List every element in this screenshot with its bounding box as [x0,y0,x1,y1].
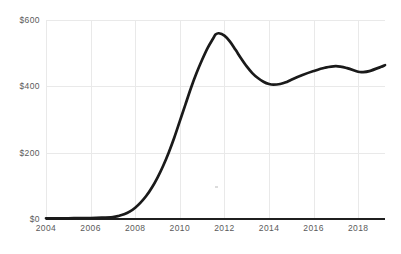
x-tick-label: 2018 [348,223,369,233]
y-tick-label: $400 [19,81,40,91]
x-tick-label: 2012 [214,223,235,233]
stray-speck [215,186,218,188]
line-chart: $600$400$200$0 2004200620082010201220142… [0,0,401,254]
y-tick-label: $200 [19,148,40,158]
x-tick-label: 2004 [36,223,57,233]
x-tick-label: 2010 [170,223,191,233]
y-tick-label: $600 [19,15,40,25]
x-tick-label: 2014 [259,223,280,233]
chart-background [0,0,401,254]
chart-canvas: $600$400$200$0 2004200620082010201220142… [0,0,401,254]
x-tick-label: 2006 [80,223,101,233]
x-tick-label: 2016 [303,223,324,233]
x-tick-label: 2008 [125,223,146,233]
